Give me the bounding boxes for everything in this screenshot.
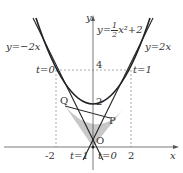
x-tick-neg2: -2 bbox=[45, 151, 55, 161]
left-line-equation: y=−2x bbox=[6, 42, 40, 52]
segment-qp bbox=[65, 106, 110, 118]
point-p-label: P bbox=[109, 116, 116, 126]
parabola-equation: y=12x²+2 bbox=[97, 22, 143, 39]
origin-point bbox=[92, 146, 95, 149]
origin-label: O bbox=[96, 136, 104, 146]
param-bottom-left: t=1 bbox=[70, 151, 89, 161]
x-axis-label: x bbox=[170, 151, 176, 161]
x-axis-arrow bbox=[173, 145, 179, 149]
right-line-equation: y=2x bbox=[145, 42, 171, 52]
param-top-right: t=1 bbox=[133, 65, 152, 75]
y-axis-label: y bbox=[86, 13, 92, 23]
x-tick-2: 2 bbox=[128, 151, 134, 161]
parabola-tangent-diagram: y x O -2 2 2 4 y=12x²+2 y=−2x y=2x Q P t… bbox=[0, 0, 183, 173]
point-q-label: Q bbox=[60, 96, 68, 106]
diagram-graphics bbox=[0, 0, 183, 173]
y-tick-2: 2 bbox=[96, 97, 102, 107]
y-tick-4: 4 bbox=[96, 60, 102, 70]
shaded-region bbox=[65, 106, 124, 147]
param-top-left: t=0 bbox=[36, 65, 55, 75]
param-bottom-right: t=0 bbox=[98, 151, 117, 161]
